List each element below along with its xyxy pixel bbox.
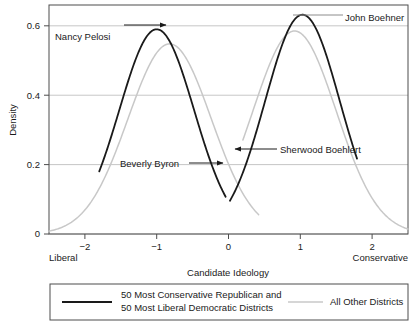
annotation-label-sherwood-boehlert: Sherwood Boehlert [280, 144, 361, 155]
legend-label-extreme-districts-line-1: 50 Most Liberal Democratic Districts [121, 302, 273, 313]
x-tick-label-3: 1 [298, 241, 303, 252]
annotation-label-nancy-pelosi: Nancy Pelosi [55, 31, 110, 42]
x-tick-label-0: −2 [79, 241, 90, 252]
curve-mode-0 [99, 29, 225, 196]
density-plot: 00.20.40.6 −2−1012 Density Candidate Ide… [0, 0, 418, 324]
x-axis-title: Candidate Ideology [187, 267, 269, 278]
annotation-label-beverly-byron: Beverly Byron [120, 158, 179, 169]
y-axis: 00.20.40.6 [27, 20, 49, 239]
annotations: Nancy PelosiJohn BoehnerBeverly ByronShe… [55, 12, 404, 169]
y-tick-label-2: 0.4 [27, 90, 40, 101]
series-extreme-districts [99, 15, 357, 201]
series-all-other-districts [49, 31, 408, 231]
annotation-label-john-boehner: John Boehner [345, 12, 404, 23]
x-tick-label-2: 0 [226, 241, 231, 252]
y-tick-label-3: 0.6 [27, 20, 40, 31]
y-axis-title: Density [7, 104, 18, 136]
y-tick-label-1: 0.2 [27, 159, 40, 170]
curve-mode-1 [243, 31, 408, 229]
curve-mode-1 [230, 15, 357, 201]
legend: 50 Most Conservative Republican and50 Mo… [50, 284, 408, 320]
x-tick-label-1: −1 [151, 241, 162, 252]
gridlines [49, 26, 408, 234]
x-axis-right-end-label: Conservative [353, 252, 408, 263]
curve-mode-0 [49, 44, 259, 231]
legend-label-all-other-districts-line-0: All Other Districts [330, 296, 404, 307]
x-axis: −2−1012 [79, 234, 374, 252]
legend-label-extreme-districts-line-0: 50 Most Conservative Republican and [121, 289, 282, 300]
y-tick-label-0: 0 [35, 228, 40, 239]
x-tick-label-4: 2 [369, 241, 374, 252]
x-axis-left-end-label: Liberal [49, 252, 78, 263]
chart-figure: 00.20.40.6 −2−1012 Density Candidate Ide… [0, 0, 418, 324]
